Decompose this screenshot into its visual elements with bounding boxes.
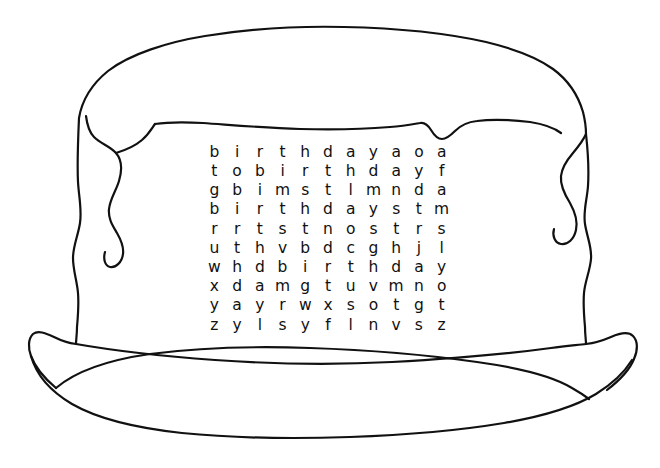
grid-cell: s (369, 222, 377, 238)
grid-cell: r (257, 145, 263, 161)
grid-cell: d (323, 145, 333, 161)
grid-cell: h (346, 164, 356, 180)
grid-cell: d (369, 164, 379, 180)
grid-cell: r (302, 164, 308, 180)
grid-cell: o (346, 222, 355, 238)
grid-cell: l (258, 318, 262, 334)
grid-cell: o (414, 145, 423, 161)
grid-cell: h (300, 145, 310, 161)
grid-cell: g (209, 183, 219, 199)
cake-top-dome (79, 27, 586, 134)
grid-cell: a (346, 202, 356, 218)
grid-cell: w (208, 260, 221, 276)
grid-cell: b (209, 145, 219, 161)
grid-cell: d (391, 260, 401, 276)
grid-cell: t (302, 222, 308, 238)
grid-cell: m (389, 279, 404, 295)
plate-rim-right (586, 333, 637, 390)
grid-cell: n (323, 222, 333, 238)
grid-cell: b (232, 183, 242, 199)
grid-cell: d (323, 241, 333, 257)
grid-cell: m (275, 183, 290, 199)
grid-cell: s (392, 202, 400, 218)
grid-cell: s (279, 222, 287, 238)
grid-cell: t (439, 298, 445, 314)
grid-cell: l (439, 241, 443, 257)
grid-cell: i (235, 202, 239, 218)
grid-cell: m (275, 279, 290, 295)
grid-cell: h (232, 260, 242, 276)
cake-body-left (73, 118, 81, 344)
grid-cell: d (323, 202, 333, 218)
grid-cell: d (255, 260, 265, 276)
grid-cell: d (232, 279, 242, 295)
grid-cell: z (210, 318, 218, 334)
grid-cell: b (300, 241, 310, 257)
grid-cell: b (278, 260, 288, 276)
grid-cell: a (255, 279, 265, 295)
plate-outer-edge (31, 356, 632, 438)
grid-cell: n (369, 318, 379, 334)
cake-frosting-edge (155, 120, 561, 139)
grid-cell: i (258, 183, 262, 199)
cake-frosting-drip-right (553, 134, 586, 244)
grid-cell: t (234, 241, 240, 257)
grid-cell: g (369, 241, 379, 257)
grid-cell: z (438, 318, 446, 334)
grid-cell: a (232, 298, 242, 314)
grid-cell: y (232, 318, 241, 334)
cake-frosting-drip-left-inner (116, 124, 155, 153)
grid-cell: t (325, 183, 331, 199)
plate-inner-edge (56, 347, 589, 399)
grid-cell: t (257, 222, 263, 238)
grid-cell: n (391, 183, 401, 199)
word-search-cake-illustration: birthdayaoatobirthdayfgbimstlmndabirthda… (0, 0, 660, 468)
grid-cell: g (414, 298, 424, 314)
cake-body-right (584, 134, 592, 344)
grid-cell: h (369, 260, 379, 276)
grid-cell: y (255, 298, 264, 314)
grid-cell: h (300, 202, 310, 218)
grid-cell: o (369, 298, 378, 314)
grid-cell: r (279, 298, 285, 314)
grid-cell: t (416, 202, 422, 218)
grid-cell: y (437, 260, 446, 276)
grid-cell: y (369, 145, 378, 161)
grid-cell: s (347, 298, 355, 314)
grid-cell: o (437, 279, 446, 295)
grid-cell: a (346, 145, 356, 161)
grid-cell: d (414, 183, 424, 199)
grid-cell: t (211, 164, 217, 180)
grid-cell: a (437, 183, 447, 199)
grid-cell: l (349, 318, 353, 334)
grid-cell: s (301, 183, 309, 199)
grid-cell: x (323, 298, 332, 314)
grid-cell: i (235, 145, 239, 161)
grid-cell: h (255, 241, 265, 257)
grid-cell: t (280, 145, 286, 161)
grid-cell: b (209, 202, 219, 218)
grid-cell: v (278, 241, 287, 257)
grid-cell: t (393, 298, 399, 314)
grid-cell: a (391, 145, 401, 161)
grid-cell: y (301, 318, 310, 334)
grid-cell: i (280, 164, 284, 180)
grid-cell: y (210, 298, 219, 314)
grid-cell: w (299, 298, 312, 314)
grid-cell: i (303, 260, 307, 276)
grid-cell: x (210, 279, 219, 295)
grid-cell: v (369, 279, 378, 295)
grid-cell: b (255, 164, 265, 180)
cake-frosting-drip-left (86, 116, 123, 267)
grid-cell: c (346, 241, 355, 257)
grid-cell: t (325, 279, 331, 295)
grid-cell: v (392, 318, 401, 334)
word-search-grid: birthdayaoatobirthdayfgbimstlmndabirthda… (203, 143, 453, 335)
grid-cell: f (439, 164, 444, 180)
grid-cell: t (280, 202, 286, 218)
grid-cell: h (391, 241, 401, 257)
grid-cell: o (232, 164, 241, 180)
grid-cell: r (325, 260, 331, 276)
grid-cell: a (391, 164, 401, 180)
grid-cell: s (415, 318, 423, 334)
